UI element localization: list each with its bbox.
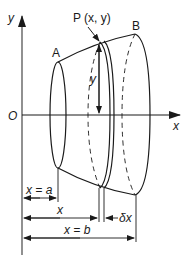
x-axis-label: x	[172, 119, 180, 133]
p-pointer	[88, 27, 99, 41]
y-axis-label: y	[7, 11, 15, 25]
point-a-label: A	[52, 46, 60, 60]
solid-of-revolution-diagram: y x O A B P (x, y) y x = a x δx x = b	[0, 0, 187, 257]
bottom-curve	[58, 168, 135, 195]
point-p-label: P (x, y)	[73, 11, 111, 25]
height-label: y	[89, 72, 97, 86]
axes	[22, 16, 180, 255]
dim-dx-label: δx	[119, 211, 133, 225]
dim-x-label: x	[56, 203, 64, 217]
dim-a-label: x = a	[25, 183, 53, 197]
dim-b-label: x = b	[63, 223, 91, 237]
point-b-label: B	[132, 19, 140, 33]
origin-label: O	[8, 109, 17, 123]
